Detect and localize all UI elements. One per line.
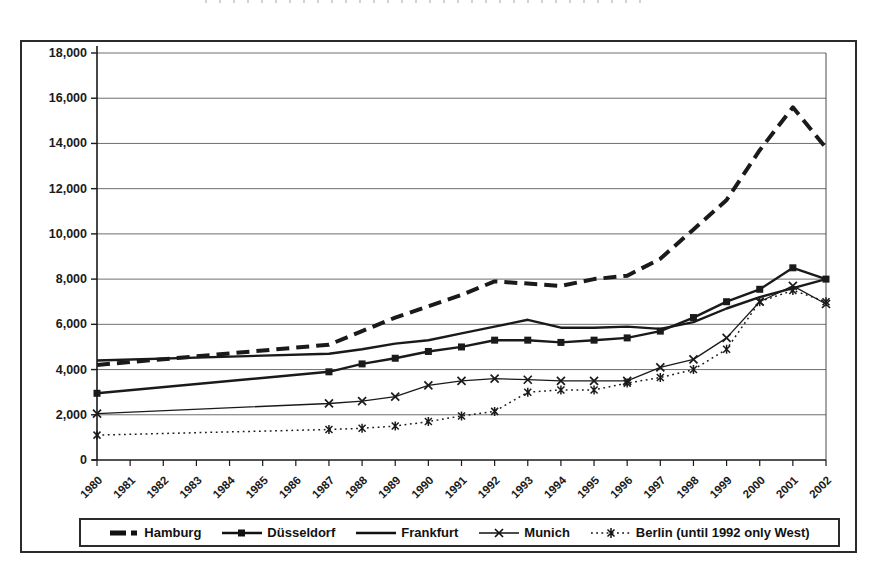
x-tick-label: 1997 bbox=[641, 474, 668, 501]
legend-label-duesseldorf: Düsseldorf bbox=[267, 525, 335, 540]
series-marker-duesseldorf bbox=[458, 343, 465, 350]
munich-line-swatch-icon bbox=[479, 527, 519, 539]
y-tick-label: 2,000 bbox=[56, 408, 87, 422]
x-tick-label: 1998 bbox=[674, 474, 701, 501]
x-tick-label: 1994 bbox=[542, 474, 569, 501]
legend-label-munich: Munich bbox=[524, 525, 570, 540]
legend-item-munich: Munich bbox=[479, 525, 570, 540]
y-tick-label: 6,000 bbox=[56, 317, 87, 331]
x-tick-label: 1982 bbox=[144, 474, 171, 501]
x-tick-label: 2000 bbox=[741, 474, 768, 501]
legend: Hamburg Düsseldorf Frankfurt Munich Berl… bbox=[79, 518, 840, 547]
series-line-hamburg bbox=[97, 107, 826, 365]
legend-item-duesseldorf: Düsseldorf bbox=[222, 525, 335, 540]
series-marker-duesseldorf bbox=[94, 390, 101, 397]
series-marker-duesseldorf bbox=[524, 337, 531, 344]
series-marker-duesseldorf bbox=[425, 348, 432, 355]
x-tick-label: 2001 bbox=[774, 474, 801, 501]
x-tick-label: 1996 bbox=[608, 474, 635, 501]
series-marker-berlin bbox=[591, 385, 598, 394]
series-marker-berlin bbox=[359, 424, 366, 433]
series-marker-duesseldorf bbox=[359, 360, 366, 367]
legend-item-frankfurt: Frankfurt bbox=[356, 525, 458, 540]
legend-label-berlin: Berlin (until 1992 only West) bbox=[636, 525, 810, 540]
x-tick-label: 1980 bbox=[78, 474, 105, 501]
legend-label-hamburg: Hamburg bbox=[144, 525, 201, 540]
series-marker-berlin bbox=[325, 425, 332, 434]
series-marker-duesseldorf bbox=[690, 314, 697, 321]
series-marker-duesseldorf bbox=[723, 298, 730, 305]
frankfurt-line-swatch-icon bbox=[356, 527, 396, 539]
x-tick-label: 2002 bbox=[807, 474, 834, 501]
y-tick-label: 4,000 bbox=[56, 363, 87, 377]
x-tick-label: 1987 bbox=[310, 474, 337, 501]
series-marker-duesseldorf bbox=[657, 328, 664, 335]
chart-canvas: 02,0004,0006,0008,00010,00012,00014,0001… bbox=[0, 0, 879, 576]
series-marker-duesseldorf bbox=[756, 286, 763, 293]
x-tick-label: 1990 bbox=[409, 474, 436, 501]
series-marker-duesseldorf bbox=[491, 337, 498, 344]
series-marker-duesseldorf bbox=[591, 337, 598, 344]
x-tick-label: 1992 bbox=[475, 474, 502, 501]
series-marker-duesseldorf bbox=[624, 334, 631, 341]
series-marker-duesseldorf bbox=[325, 368, 332, 375]
y-tick-label: 10,000 bbox=[49, 227, 87, 241]
legend-item-berlin: Berlin (until 1992 only West) bbox=[591, 525, 810, 540]
berlin-line-swatch-icon bbox=[591, 527, 631, 539]
x-tick-label: 1988 bbox=[343, 474, 370, 501]
series-marker-duesseldorf bbox=[789, 264, 796, 271]
y-tick-label: 0 bbox=[80, 453, 87, 467]
series-marker-berlin bbox=[392, 422, 399, 431]
series-marker-munich bbox=[723, 334, 731, 342]
x-tick-label: 1984 bbox=[210, 474, 237, 501]
x-tick-label: 1989 bbox=[376, 474, 403, 501]
series-marker-duesseldorf bbox=[823, 276, 830, 283]
series-marker-berlin bbox=[94, 431, 101, 440]
y-tick-label: 12,000 bbox=[49, 182, 87, 196]
series-marker-berlin bbox=[723, 345, 730, 354]
x-tick-label: 1986 bbox=[277, 474, 304, 501]
legend-item-hamburg: Hamburg bbox=[109, 525, 201, 540]
y-tick-label: 16,000 bbox=[49, 91, 87, 105]
series-marker-duesseldorf bbox=[392, 355, 399, 362]
x-tick-label: 1999 bbox=[707, 474, 734, 501]
hamburg-line-swatch-icon bbox=[109, 527, 139, 539]
x-tick-label: 1985 bbox=[244, 474, 271, 501]
y-tick-label: 8,000 bbox=[56, 272, 87, 286]
series-marker-berlin bbox=[524, 388, 531, 397]
legend-label-frankfurt: Frankfurt bbox=[401, 525, 458, 540]
series-marker-berlin bbox=[557, 385, 564, 394]
series-marker-berlin bbox=[491, 407, 498, 416]
series-marker-munich bbox=[689, 355, 697, 363]
series-line-duesseldorf bbox=[97, 268, 826, 394]
x-tick-label: 1983 bbox=[177, 474, 204, 501]
duesseldorf-line-swatch-icon bbox=[222, 527, 262, 539]
x-tick-label: 1993 bbox=[509, 474, 536, 501]
x-tick-label: 1995 bbox=[575, 474, 602, 501]
y-tick-label: 14,000 bbox=[49, 136, 87, 150]
x-tick-label: 1981 bbox=[111, 474, 138, 501]
x-tick-label: 1991 bbox=[442, 474, 469, 501]
y-tick-label: 18,000 bbox=[49, 46, 87, 60]
series-marker-duesseldorf bbox=[557, 339, 564, 346]
